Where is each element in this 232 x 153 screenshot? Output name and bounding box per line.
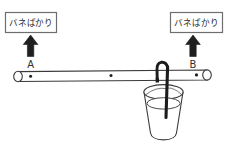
bucket-water-level xyxy=(147,98,180,109)
right-force-arrow xyxy=(186,35,201,57)
rod-body xyxy=(18,70,207,82)
bucket-hook-vertical-wire xyxy=(166,67,168,118)
rod-left-end-cap xyxy=(14,71,23,81)
rod-point-label-b: B xyxy=(190,59,197,70)
left-arrow-up-icon xyxy=(23,35,38,57)
right-arrow-up-icon xyxy=(186,35,201,57)
diagram-canvas: バネばかり A バネばかり B xyxy=(0,0,232,153)
rod-marker-dot-center xyxy=(110,74,113,77)
left-scale-label-text: バネばかり xyxy=(9,18,53,28)
water-bucket xyxy=(144,85,183,140)
left-force-arrow xyxy=(23,35,38,57)
horizontal-rod xyxy=(14,70,212,82)
rod-marker-dot-a xyxy=(29,75,32,78)
right-scale-label-group: バネばかり xyxy=(171,13,223,33)
rod-marker-dot-b xyxy=(195,73,198,76)
right-scale-label-text: バネばかり xyxy=(174,18,218,28)
rod-right-end-cap xyxy=(203,70,212,80)
rod-point-label-a: A xyxy=(27,59,34,70)
physics-diagram-svg: バネばかり A バネばかり B xyxy=(0,0,232,153)
left-scale-label-group: バネばかり xyxy=(6,13,57,33)
hook-clamp-nub xyxy=(156,78,159,83)
